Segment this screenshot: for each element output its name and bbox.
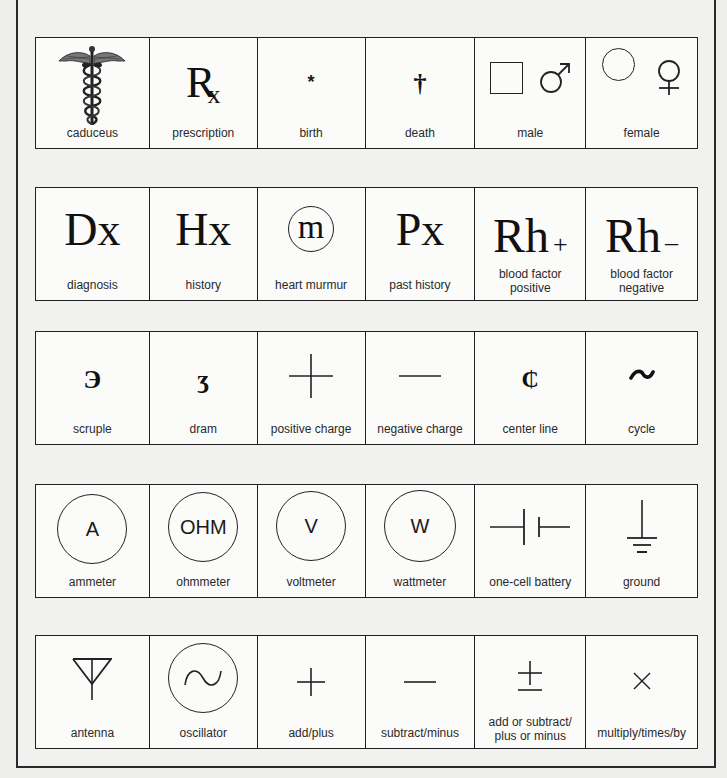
- symbol-row-3: Э scruple ʒ dram positive charge negativ…: [35, 331, 698, 445]
- ohmmeter-label: ohmmeter: [150, 575, 257, 589]
- female-symbol-icon: [657, 60, 681, 96]
- rh-negative-icon: Rh –: [586, 188, 697, 260]
- symbol-row-4: A ammeter OHM ohmmeter V voltmeter W wat…: [35, 484, 698, 598]
- birth-asterisk-icon: *: [258, 38, 365, 118]
- cell-antenna: antenna: [36, 636, 150, 748]
- cell-wattmeter: W wattmeter: [366, 485, 476, 597]
- cell-ohmmeter: OHM ohmmeter: [150, 485, 258, 597]
- cell-voltmeter: V voltmeter: [258, 485, 366, 597]
- voltmeter-label: voltmeter: [258, 575, 365, 589]
- male-square-icon: [490, 62, 523, 94]
- plus-minus-label: add or subtract/ plus or minus: [475, 715, 585, 743]
- plus-minus-icon: [475, 644, 585, 708]
- wattmeter-icon: W: [366, 485, 475, 567]
- cell-cycle: cycle: [586, 332, 697, 444]
- symbol-row-2: Dx diagnosis Hx history m heart murmur P…: [35, 187, 698, 301]
- voltmeter-icon: V: [258, 485, 365, 567]
- cell-male: male: [475, 38, 586, 148]
- oscillator-label: oscillator: [150, 726, 257, 740]
- female-label: female: [586, 126, 697, 140]
- center-line-label: center line: [475, 422, 585, 436]
- death-dagger-icon: †: [366, 38, 475, 118]
- rh-positive-icon: Rh +: [475, 188, 585, 260]
- male-symbol-icon: [539, 62, 571, 94]
- ground-label: ground: [586, 575, 697, 589]
- male-icon: [475, 38, 585, 118]
- positive-charge-label: positive charge: [258, 422, 365, 436]
- cell-ground: ground: [586, 485, 697, 597]
- wattmeter-label: wattmeter: [366, 575, 475, 589]
- cell-negative-charge: negative charge: [366, 332, 476, 444]
- dram-label: dram: [150, 422, 257, 436]
- cell-oscillator: oscillator: [150, 636, 258, 748]
- history-label: history: [150, 278, 257, 292]
- rh-positive-label: blood factor positive: [475, 267, 585, 295]
- dram-icon: ʒ: [150, 346, 257, 414]
- center-line-icon: ₵: [475, 344, 585, 414]
- ohmmeter-icon: OHM: [150, 487, 257, 567]
- history-icon: Hx: [150, 188, 257, 270]
- positive-charge-icon: [258, 338, 365, 414]
- cell-positive-charge: positive charge: [258, 332, 366, 444]
- cell-history: Hx history: [150, 188, 258, 300]
- cell-heart-murmur: m heart murmur: [258, 188, 366, 300]
- battery-label: one-cell battery: [475, 575, 585, 589]
- scruple-icon: Э: [36, 346, 149, 414]
- ammeter-icon: A: [36, 491, 149, 567]
- cell-subtract-minus: subtract/minus: [366, 636, 476, 748]
- cell-scruple: Э scruple: [36, 332, 150, 444]
- symbol-row-5: antenna oscillator add/plus subtract/min…: [35, 635, 698, 749]
- cell-rh-positive: Rh + blood factor positive: [475, 188, 586, 300]
- minus-icon: [366, 646, 475, 718]
- cell-death: † death: [366, 38, 476, 148]
- plus-icon: [258, 646, 365, 718]
- past-history-label: past history: [366, 278, 475, 292]
- ground-icon: [586, 489, 697, 567]
- cell-diagnosis: Dx diagnosis: [36, 188, 150, 300]
- cell-prescription: Rx prescription: [150, 38, 258, 148]
- add-plus-label: add/plus: [258, 726, 365, 740]
- ammeter-label: ammeter: [36, 575, 149, 589]
- cell-female: female: [586, 38, 697, 148]
- cell-dram: ʒ dram: [150, 332, 258, 444]
- cycle-icon: [586, 336, 697, 414]
- rh-negative-label: blood factor negative: [586, 267, 697, 295]
- cycle-label: cycle: [586, 422, 697, 436]
- heart-murmur-icon: m: [258, 188, 365, 270]
- death-label: death: [366, 126, 475, 140]
- male-label: male: [475, 126, 585, 140]
- birth-label: birth: [258, 126, 365, 140]
- cell-battery: one-cell battery: [475, 485, 586, 597]
- negative-charge-icon: [366, 338, 475, 414]
- cell-plus-minus: add or subtract/ plus or minus: [475, 636, 586, 748]
- diagnosis-label: diagnosis: [36, 278, 149, 292]
- battery-icon: [475, 487, 585, 567]
- oscillator-icon: [150, 638, 257, 718]
- female-circle-icon: [602, 48, 635, 81]
- scruple-label: scruple: [36, 422, 149, 436]
- cell-center-line: ₵ center line: [475, 332, 586, 444]
- cell-birth: * birth: [258, 38, 366, 148]
- cell-past-history: Px past history: [366, 188, 476, 300]
- antenna-icon: [36, 640, 149, 718]
- symbol-row-1: caduceus Rx prescription * birth † death…: [35, 37, 698, 149]
- antenna-label: antenna: [36, 726, 149, 740]
- multiply-icon: [586, 644, 697, 718]
- cell-rh-negative: Rh – blood factor negative: [586, 188, 697, 300]
- multiply-label: multiply/times/by: [586, 726, 697, 740]
- subtract-minus-label: subtract/minus: [366, 726, 475, 740]
- female-icon: [586, 38, 697, 118]
- cell-add-plus: add/plus: [258, 636, 366, 748]
- cell-ammeter: A ammeter: [36, 485, 150, 597]
- diagnosis-icon: Dx: [36, 188, 149, 270]
- caduceus-icon: [36, 44, 149, 126]
- prescription-icon: Rx: [150, 38, 257, 118]
- negative-charge-label: negative charge: [366, 422, 475, 436]
- heart-murmur-label: heart murmur: [258, 278, 365, 292]
- caduceus-label: caduceus: [36, 126, 149, 140]
- prescription-label: prescription: [150, 126, 257, 140]
- past-history-icon: Px: [366, 188, 475, 270]
- cell-caduceus: caduceus: [36, 38, 150, 148]
- cell-multiply: multiply/times/by: [586, 636, 697, 748]
